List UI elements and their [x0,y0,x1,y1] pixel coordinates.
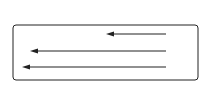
m-arrowhead-icon [30,49,38,54]
vector-b0 [0,0,166,37]
b0-arrowhead-icon [106,32,114,37]
material-block [13,25,198,80]
b-arrowhead-icon [22,65,30,70]
vector-m [30,49,166,54]
vector-b [22,65,166,70]
diagram-svg [0,0,204,102]
diagram-canvas [0,0,204,102]
